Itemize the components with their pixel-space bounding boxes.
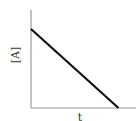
y-axis-label: [A] (9, 43, 23, 67)
zero-order-kinetics-chart: [A] t (0, 0, 136, 121)
concentration-line (31, 29, 119, 108)
x-axis-label: t (74, 112, 86, 121)
